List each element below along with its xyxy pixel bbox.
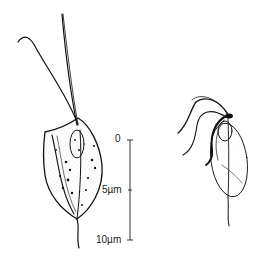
nucleus — [70, 130, 84, 158]
right-organism — [178, 96, 252, 226]
protozoa-illustration — [0, 0, 266, 256]
left-organism — [18, 14, 102, 248]
scale-label-10um: 10µm — [96, 235, 121, 245]
posterior-flagellum — [228, 197, 229, 226]
scale-bar — [127, 140, 133, 240]
scale-label-5um: 5µm — [102, 185, 122, 195]
posterior-flagellum — [77, 219, 79, 248]
nucleus — [218, 121, 232, 141]
scale-label-0: 0 — [115, 134, 121, 144]
